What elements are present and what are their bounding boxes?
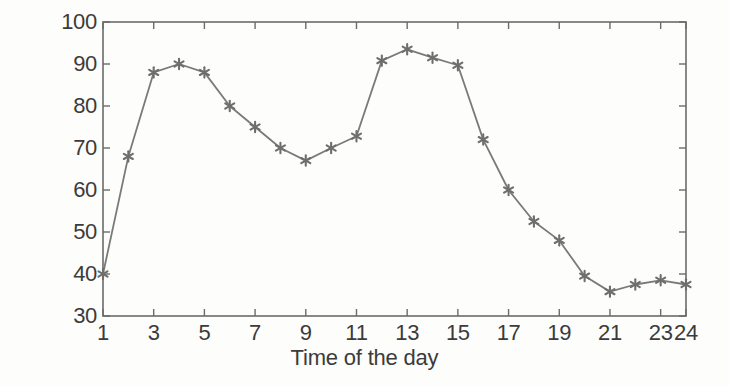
data-line (103, 49, 686, 291)
plot-axes-box (103, 22, 686, 316)
data-point-marker (403, 44, 412, 54)
y-tick-label: 80 (73, 93, 97, 119)
x-axis-ticks (103, 22, 686, 316)
data-point-marker (479, 134, 488, 144)
data-point-marker (327, 143, 336, 153)
y-axis-ticks (103, 22, 686, 316)
data-point-marker (428, 53, 437, 63)
data-point-marker (453, 60, 462, 70)
y-tick-label: 30 (73, 303, 97, 329)
data-point-marker (377, 55, 386, 65)
data-point-marker (149, 67, 158, 77)
data-point-marker (301, 155, 310, 165)
data-point-marker (352, 131, 361, 141)
x-tick-label: 21 (598, 320, 622, 346)
x-tick-label: 11 (345, 320, 367, 346)
x-tick-label: 24 (674, 320, 698, 346)
x-axis-title: Time of the day (0, 345, 729, 371)
x-tick-label: 9 (300, 320, 312, 346)
chart-figure: 30405060708090100 135791113151719212324 … (0, 0, 729, 386)
x-tick-label: 19 (547, 320, 571, 346)
y-tick-label: 40 (73, 261, 97, 287)
x-tick-label: 3 (148, 320, 160, 346)
x-tick-label: 7 (249, 320, 261, 346)
x-tick-label: 1 (97, 320, 109, 346)
y-tick-label: 90 (73, 51, 97, 77)
x-tick-label: 17 (497, 320, 521, 346)
data-markers (99, 44, 691, 297)
x-tick-label: 13 (395, 320, 419, 346)
x-tick-label: 5 (198, 320, 210, 346)
data-point-marker (175, 59, 184, 69)
y-tick-label: 60 (73, 177, 97, 203)
data-point-marker (124, 151, 133, 161)
x-tick-label: 23 (649, 320, 673, 346)
y-tick-label: 50 (73, 219, 97, 245)
y-tick-label: 70 (73, 135, 97, 161)
y-tick-label: 100 (61, 9, 97, 35)
x-tick-label: 15 (446, 320, 470, 346)
